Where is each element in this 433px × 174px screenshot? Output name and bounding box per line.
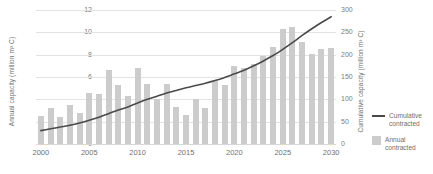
legend-item-annual-contracted: Annual contracted [372,136,433,153]
y-axis-right-tick-label: 200 [341,51,371,58]
y-axis-right-tick-label: 250 [341,28,371,35]
y-axis-right-tick-label: 50 [341,118,371,125]
x-axis-tick-label: 2005 [69,148,109,157]
y-axis-right-tick-label: 150 [341,73,371,80]
legend-item-cumulative-contracted: Cumulative contracted [372,112,433,129]
y-axis-right-tick-label: 100 [341,95,371,102]
legend-line-icon [372,115,385,117]
cumulative-line-path [41,17,331,131]
x-axis-tick-label: 2020 [214,148,254,157]
x-axis-tick-label: 2010 [118,148,158,157]
chart-container: Annual capacity (million m³ C) Cumulativ… [0,0,433,174]
legend-label-cumulative: Cumulative contracted [389,112,433,129]
y-axis-right-tick-label: 300 [341,6,371,13]
legend-swatch-icon [372,136,381,145]
line-series-cumulative-contracted [36,10,336,144]
legend-label-annual: Annual contracted [385,136,433,153]
x-axis-tick-label: 2030 [311,148,351,157]
y-axis-left-title: Annual capacity (million m³ C) [8,22,15,142]
x-axis-tick-label: 2015 [166,148,206,157]
x-axis-tick-label: 2025 [263,148,303,157]
chart-legend: Cumulative contracted Annual contracted [372,112,433,160]
plot-area [36,10,336,144]
x-axis-tick-label: 2000 [21,148,61,157]
gridline [36,144,336,145]
y-axis-right-tick-label: 0 [341,140,371,147]
